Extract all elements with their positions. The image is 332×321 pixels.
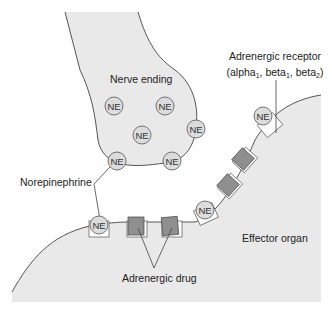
norepinephrine-leader-line-2	[94, 184, 100, 220]
effector-organ-label: Effector organ	[242, 232, 308, 244]
adrenergic-diagram: Nerve ending NE NE NE NE NE NE Norepinep…	[0, 0, 332, 321]
svg-text:NE: NE	[256, 111, 269, 122]
ne-molecule: NE	[156, 97, 174, 115]
svg-text:NE: NE	[107, 101, 120, 112]
nerve-ending-label: Nerve ending	[110, 73, 173, 85]
ne-molecule: NE	[105, 97, 123, 115]
svg-text:NE: NE	[165, 156, 178, 167]
norepinephrine-label: Norepinephrine	[20, 176, 92, 188]
adrenergic-drug-molecule	[128, 217, 144, 235]
svg-text:NE: NE	[198, 205, 211, 216]
svg-text:NE: NE	[92, 220, 105, 231]
ne-molecule: NE	[108, 152, 126, 170]
svg-text:NE: NE	[110, 156, 123, 167]
adrenergic-receptor-label-line2: (alpha1, beta1, beta2)	[227, 66, 324, 79]
svg-text:NE: NE	[158, 101, 171, 112]
nerve-ending	[65, 12, 197, 166]
ne-bound-molecule: NE	[196, 201, 214, 219]
ne-molecule: NE	[133, 126, 151, 144]
ne-bound-molecule: NE	[254, 107, 272, 125]
adrenergic-receptor-label-line1: Adrenergic receptor	[229, 50, 322, 62]
svg-text:NE: NE	[135, 130, 148, 141]
norepinephrine-leader-line	[94, 167, 110, 184]
adrenergic-drug-label: Adrenergic drug	[122, 272, 197, 284]
ne-molecule: NE	[187, 120, 205, 138]
ne-molecule: NE	[163, 152, 181, 170]
ne-bound-molecule: NE	[90, 216, 108, 234]
svg-text:NE: NE	[189, 124, 202, 135]
